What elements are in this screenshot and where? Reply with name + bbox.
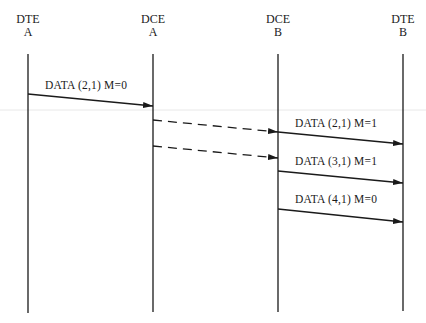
entity-id: A [0,26,58,39]
entity-header-dce-a: DCE A [123,13,183,39]
message-label-1: DATA (2,1) M=0 [45,79,127,91]
message-label-4: DATA (2,1) M=1 [295,117,377,129]
message-arrow-3-dashed [153,146,278,158]
entity-id: B [248,26,308,39]
entity-id: A [123,26,183,39]
entity-header-dce-b: DCE B [248,13,308,39]
entity-id: B [373,26,426,39]
message-label-5: DATA (3,1) M=1 [295,155,377,167]
entity-header-dte-b: DTE B [373,13,426,39]
message-arrow-6 [278,209,403,222]
message-arrow-2-dashed [153,120,278,132]
message-label-6: DATA (4,1) M=0 [295,193,377,205]
message-arrow-4 [278,132,403,144]
message-arrow-5 [278,171,403,183]
entity-header-dte-a: DTE A [0,13,58,39]
message-arrow-1 [28,94,153,106]
